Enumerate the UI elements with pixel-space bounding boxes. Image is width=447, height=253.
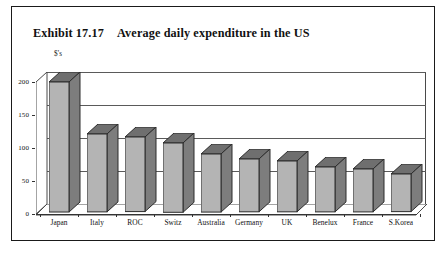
x-tick-end — [420, 214, 421, 217]
y-tick-label-50: 50 — [7, 177, 29, 185]
y-tick-100 — [32, 148, 35, 149]
x-tick-6 — [268, 214, 269, 217]
y-tick-200 — [32, 82, 35, 83]
y-tick-50 — [32, 181, 35, 182]
bar-3d-faces — [277, 151, 310, 214]
bar-3d-faces — [87, 124, 120, 214]
bar-3d-faces — [239, 149, 272, 214]
x-label-s-korea: S.Korea — [376, 218, 426, 227]
bar-s-korea[interactable] — [391, 164, 424, 214]
bar-3d-faces — [201, 144, 234, 214]
y-axis-unit-label: $'s — [54, 50, 62, 58]
x-axis-labels: JapanItalyROCSwitzAustraliaGermanyUKBene… — [36, 218, 436, 232]
x-tick-9 — [382, 214, 383, 217]
bar-italy[interactable] — [87, 124, 120, 214]
bar-series — [46, 72, 426, 204]
bar-3d-faces — [391, 164, 424, 214]
bar-chart: $'s 050100150200 JapanItalyROCSwitzAustr… — [11, 6, 435, 241]
x-tick-7 — [306, 214, 307, 217]
x-tick-0 — [40, 214, 41, 217]
y-tick-label-200: 200 — [7, 78, 29, 86]
x-tick-4 — [192, 214, 193, 217]
bar-3d-faces — [125, 127, 158, 214]
y-tick-label-100: 100 — [7, 144, 29, 152]
bar-roc[interactable] — [125, 127, 158, 214]
x-tick-1 — [78, 214, 79, 217]
bar-australia[interactable] — [201, 144, 234, 214]
x-tick-8 — [344, 214, 345, 217]
y-tick-label-150: 150 — [7, 111, 29, 119]
bar-3d-faces — [49, 72, 82, 214]
plot-area — [46, 72, 426, 204]
bar-france[interactable] — [353, 159, 386, 214]
bar-switz[interactable] — [163, 133, 196, 214]
bar-uk[interactable] — [277, 151, 310, 214]
bar-3d-faces — [353, 159, 386, 214]
x-axis-baseline — [36, 214, 417, 215]
bar-germany[interactable] — [239, 149, 272, 214]
bar-japan[interactable] — [49, 72, 82, 214]
y-tick-label-0: 0 — [7, 210, 29, 218]
y-tick-150 — [32, 115, 35, 116]
bar-benelux[interactable] — [315, 157, 348, 214]
bar-3d-faces — [163, 133, 196, 214]
x-tick-5 — [230, 214, 231, 217]
x-tick-2 — [116, 214, 117, 217]
y-tick-0 — [32, 214, 35, 215]
x-tick-3 — [154, 214, 155, 217]
bar-3d-faces — [315, 157, 348, 214]
